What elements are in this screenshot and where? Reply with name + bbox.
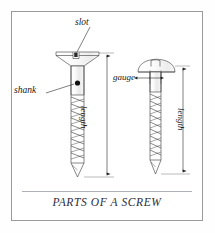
slot-leader-line <box>77 27 90 52</box>
shank-marker-dot <box>75 80 80 85</box>
round-head-point <box>150 160 161 174</box>
screw-flat-head <box>56 52 99 177</box>
label-shank: shank <box>14 86 36 96</box>
label-length-left: length <box>79 106 88 129</box>
round-head <box>138 59 175 72</box>
figure-caption: PARTS OF A SCREW <box>11 196 203 208</box>
screw-round-head <box>138 59 175 174</box>
caption-divider <box>22 191 192 192</box>
label-length-right: length <box>176 108 185 131</box>
screw-parts-figure: slot shank gauge length length PARTS OF … <box>0 0 215 233</box>
label-gauge: gauge <box>113 73 135 82</box>
flat-head <box>56 52 99 66</box>
round-head-shank <box>150 72 161 92</box>
flat-head-point <box>71 163 84 177</box>
label-slot: slot <box>75 18 89 28</box>
round-head-threads <box>150 92 161 160</box>
